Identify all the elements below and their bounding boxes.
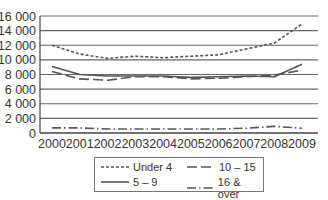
y-tick-label: 16 000	[0, 10, 36, 24]
y-tick-label: 4 000	[5, 97, 36, 111]
series-line	[52, 126, 302, 129]
solid-line-icon	[101, 179, 129, 185]
legend-label: 16 & over	[218, 176, 263, 200]
legend-item-16-over: 16 & over	[187, 176, 263, 200]
y-tick-label: 6 000	[5, 83, 36, 97]
x-tick-label: 2006	[205, 137, 233, 151]
legend-item-under-4: Under 4	[101, 161, 172, 173]
x-tick-label: 2004	[149, 137, 177, 151]
y-tick-label: 2 000	[5, 112, 36, 126]
dotted-line-icon	[101, 164, 129, 170]
x-tick-label: 2002	[94, 137, 122, 151]
x-tick-label: 2009	[288, 137, 316, 151]
x-tick-label: 2008	[260, 137, 288, 151]
gridlines	[40, 16, 318, 118]
y-tick-label: 8 000	[5, 68, 36, 82]
series-lines	[52, 24, 302, 129]
x-axis: 2000200120022003200420052006200720082009	[38, 133, 318, 151]
legend-item-10-15: 10 – 15	[187, 161, 256, 173]
y-tick-label: 0	[29, 127, 36, 141]
x-tick-label: 2000	[38, 137, 66, 151]
x-tick-label: 2005	[177, 137, 205, 151]
y-tick-label: 14 000	[0, 24, 36, 38]
y-tick-label: 10 000	[0, 53, 36, 67]
legend: Under 4 10 – 15 5 – 9 16 & over	[94, 157, 264, 192]
dash-dot-line-icon	[187, 185, 214, 191]
legend-item-5-9: 5 – 9	[101, 176, 157, 188]
series-line	[52, 24, 302, 58]
x-tick-label: 2003	[121, 137, 149, 151]
dashed-line-icon	[187, 164, 215, 170]
y-axis: 02 0004 0006 0008 00010 00012 00014 0001…	[0, 10, 40, 141]
x-tick-label: 2001	[66, 137, 94, 151]
x-tick-label: 2007	[233, 137, 261, 151]
legend-label: Under 4	[133, 161, 172, 173]
y-tick-label: 12 000	[0, 39, 36, 53]
legend-label: 5 – 9	[133, 176, 157, 188]
legend-label: 10 – 15	[219, 161, 256, 173]
